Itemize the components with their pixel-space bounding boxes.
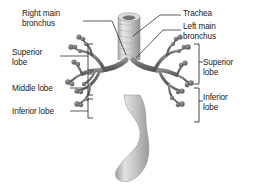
label-superior-lobe-right: Superior lobe xyxy=(203,58,233,77)
lung-anatomy-diagram: Right main bronchus Superior lobe Middle… xyxy=(0,0,256,191)
trachea-shape xyxy=(118,13,140,60)
label-inferior-lobe-left: Inferior lobe xyxy=(12,107,54,117)
bracket-inferior-lobe-right xyxy=(194,88,199,122)
esophagus-shape xyxy=(115,95,148,182)
label-left-main-bronchus: Left main bronchus xyxy=(183,22,216,41)
bracket-superior-lobe-right xyxy=(194,44,199,84)
label-middle-lobe-left: Middle lobe xyxy=(12,84,53,94)
label-trachea: Trachea xyxy=(183,9,212,19)
bracket-inferior-lobe-left xyxy=(88,99,93,118)
label-right-main-bronchus: Right main bronchus xyxy=(22,9,60,28)
label-inferior-lobe-right: Inferior lobe xyxy=(203,93,228,112)
label-superior-lobe-left: Superior lobe xyxy=(12,48,42,67)
